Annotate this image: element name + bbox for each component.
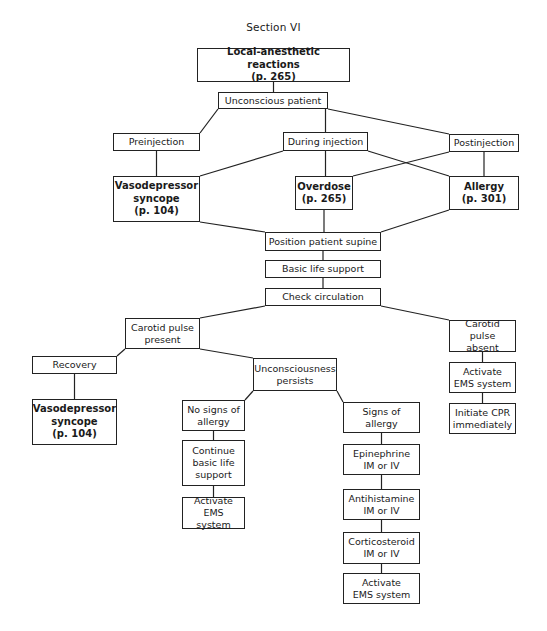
node-signs-of-allergy: Signs of allergy — [343, 402, 420, 433]
connector-postinjection-to-overdose — [353, 152, 449, 176]
node-activate-ems-system-no-allergy: Activate EMS system — [182, 497, 245, 529]
connector-carotid-present-to-recovery — [117, 349, 125, 356]
node-unconsciousness-persists: Unconsciousness persists — [253, 358, 337, 391]
node-continue-basic-life-support: Continue basic life support — [182, 440, 245, 486]
node-no-signs-of-allergy: No signs of allergy — [182, 400, 245, 431]
node-preinjection: Preinjection — [113, 133, 200, 151]
node-position-patient-supine: Position patient supine — [265, 232, 381, 251]
node-allergy: Allergy (p. 301) — [449, 176, 519, 210]
connector-check-circulation-to-carotid-absent — [381, 306, 449, 320]
node-overdose: Overdose (p. 265) — [295, 176, 353, 210]
node-check-circulation: Check circulation — [265, 288, 381, 306]
node-carotid-pulse-present: Carotid pulse present — [125, 318, 200, 349]
connector-unconscious-patient-to-postinjection — [328, 109, 449, 134]
connector-vasodepressor-top-to-position-supine — [200, 222, 265, 232]
connector-unconsciousness-persists-to-no-signs-allergy — [245, 391, 253, 400]
node-vasodepressor-syncope-outcome: Vasodepressor syncope (p. 104) — [32, 399, 117, 445]
node-carotid-pulse-absent: Carotid pulse absent — [449, 320, 516, 352]
node-initiate-cpr: Initiate CPR immediately — [449, 403, 516, 434]
connector-unconsciousness-persists-to-signs-allergy — [337, 391, 343, 402]
node-postinjection: Postinjection — [449, 134, 519, 152]
node-corticosteroid: Corticosteroid IM or IV — [343, 532, 420, 564]
node-antihistamine: Antihistamine IM or IV — [343, 489, 420, 520]
node-during-injection: During injection — [283, 132, 368, 151]
connector-during-injection-to-vasodepressor-top — [200, 151, 283, 176]
node-local-anesthetic-reactions: Local-anesthetic reactions (p. 265) — [197, 48, 350, 82]
connector-carotid-present-to-unconsciousness-persists — [200, 349, 253, 358]
connector-check-circulation-to-carotid-present — [200, 306, 265, 318]
node-activate-ems-system-absent: Activate EMS system — [449, 362, 516, 393]
node-vasodepressor-syncope: Vasodepressor syncope (p. 104) — [113, 176, 200, 222]
section-title: Section VI — [0, 21, 547, 33]
node-activate-ems-system-allergy: Activate EMS system — [343, 573, 420, 604]
connector-unconscious-patient-to-preinjection — [200, 109, 218, 133]
node-unconscious-patient: Unconscious patient — [218, 92, 328, 109]
node-basic-life-support: Basic life support — [265, 260, 381, 278]
node-epinephrine: Epinephrine IM or IV — [343, 444, 420, 475]
connector-allergy-to-position-supine — [381, 210, 449, 232]
node-recovery: Recovery — [32, 356, 117, 374]
